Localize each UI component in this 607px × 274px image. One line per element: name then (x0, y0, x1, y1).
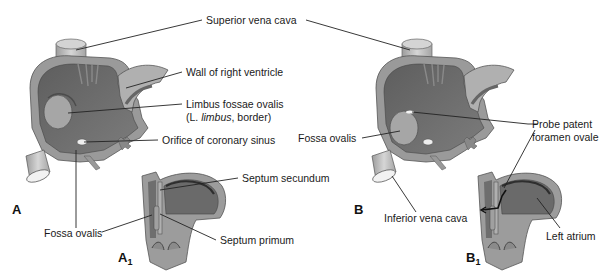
label-limbus-italic: limbus (201, 111, 231, 123)
label-wall-of-right-ventricle: Wall of right ventricle (186, 66, 283, 78)
heart-b (371, 39, 514, 185)
panel-a-letter: A (12, 202, 21, 217)
panel-label-a1: A1 (118, 250, 132, 267)
septum-primum-a1 (154, 206, 159, 230)
inferior-vena-cava-a (25, 150, 51, 185)
label-foramen-ovale: foramen ovale (532, 131, 599, 143)
section-b1 (478, 172, 562, 270)
label-fossa-ovalis-a: Fossa ovalis (44, 227, 102, 239)
label-limbus-translation-suffix: , border) (232, 111, 272, 123)
panel-a1-subscript: 1 (127, 257, 132, 267)
panel-label-b: B (354, 202, 363, 217)
fossa-ovalis-a (44, 95, 72, 129)
panel-b1-letter: B (466, 250, 475, 265)
fossa-ovalis-b (390, 111, 418, 145)
panel-b1-subscript: 1 (475, 257, 480, 267)
panel-b-letter: B (354, 202, 363, 217)
inferior-vena-cava-b (371, 150, 397, 185)
label-fossa-ovalis-b: Fossa ovalis (298, 132, 356, 144)
heart-a (25, 39, 168, 185)
panel-a1-letter: A (118, 250, 127, 265)
diagram-stage: Superior vena cava Wall of right ventric… (0, 0, 607, 274)
label-orifice-coronary-sinus: Orifice of coronary sinus (162, 134, 275, 146)
label-limbus-fossae-ovalis: Limbus fossae ovalis (186, 98, 283, 110)
panel-label-a: A (12, 202, 21, 217)
label-limbus-translation: (L. limbus, border) (186, 111, 271, 123)
label-limbus-translation-prefix: (L. (186, 111, 201, 123)
label-septum-secundum: Septum secundum (242, 172, 330, 184)
coronary-sinus-orifice-b (423, 139, 433, 145)
label-superior-vena-cava: Superior vena cava (206, 14, 296, 26)
label-left-atrium: Left atrium (546, 230, 596, 242)
superior-vena-cava-b (402, 39, 432, 58)
label-probe-patent: Probe patent (532, 118, 592, 130)
label-inferior-vena-cava: Inferior vena cava (384, 212, 467, 224)
label-septum-primum: Septum primum (220, 234, 294, 246)
panel-label-b1: B1 (466, 250, 480, 267)
